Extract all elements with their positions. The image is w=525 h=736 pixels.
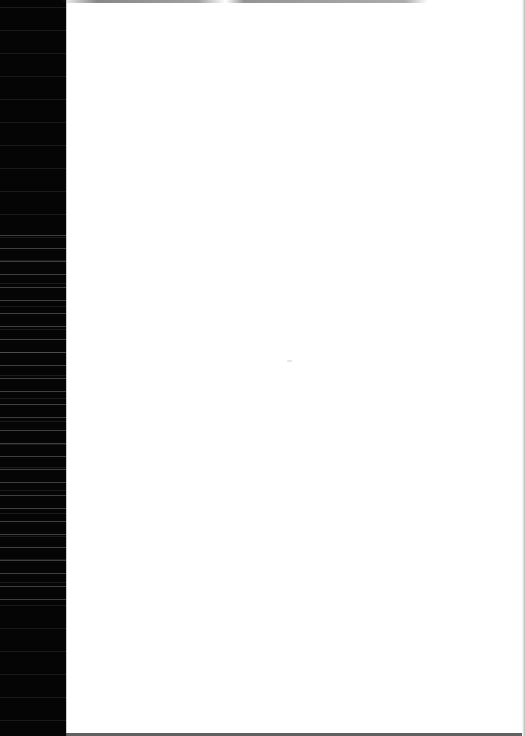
scan-border-top bbox=[60, 0, 520, 3]
scan-speck bbox=[287, 360, 292, 362]
blank-page bbox=[66, 0, 523, 736]
scan-border-left bbox=[0, 0, 66, 736]
scan-artifact-streaks bbox=[0, 230, 66, 600]
